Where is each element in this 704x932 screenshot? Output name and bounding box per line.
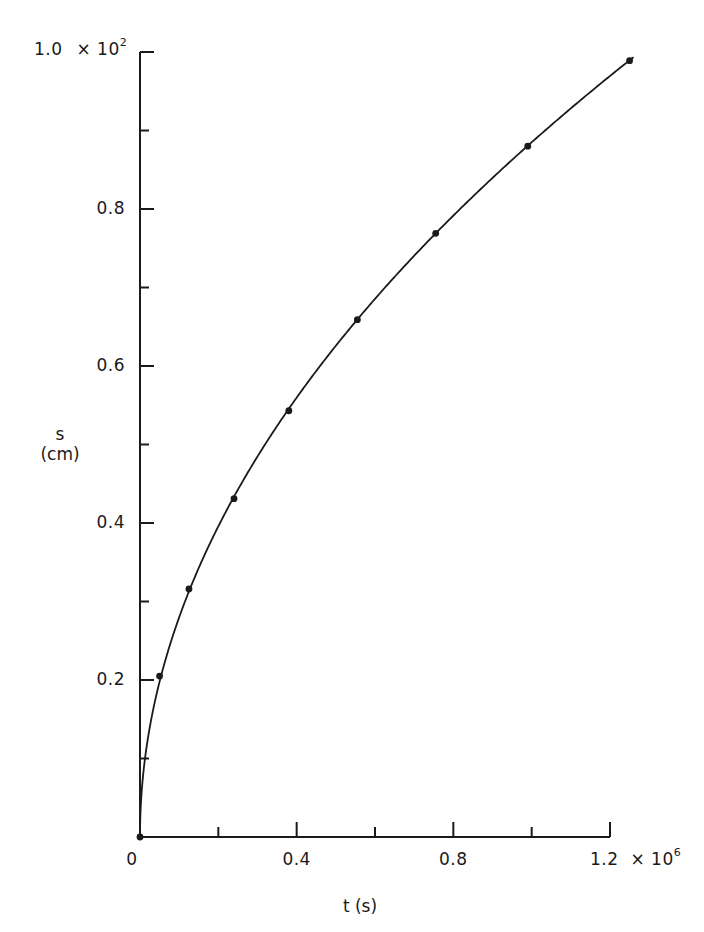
chart-plot-area [0,0,704,932]
y-tick-label: 0.4 [65,512,125,532]
x-multiplier-exp: 6 [674,846,682,859]
data-point [626,57,633,64]
x-tick-label: 0.4 [267,849,327,869]
data-point [354,316,361,323]
data-points [137,57,633,840]
axis-ticks [140,52,610,837]
y-tick-label: 0.8 [65,198,125,218]
fit-curve [140,57,634,837]
y-axis-unit: (cm) [30,444,90,464]
x-axis-title: t (s) [310,896,410,916]
y-multiplier-exp: 2 [120,36,128,49]
axes [140,52,610,837]
x-axis-title-text: t (s) [343,896,377,916]
x-axis-end-label: 1.2 × 106 [590,848,681,869]
data-point [231,495,238,502]
data-point [432,230,439,237]
y-axis-title: s (cm) [30,424,90,464]
data-point [137,834,144,841]
x-tick-label: 0 [102,849,162,869]
y-tick-label: 0.6 [65,355,125,375]
data-point [524,143,531,150]
data-point [156,673,163,680]
y-multiplier: × 10 [76,39,119,59]
x-tick-label: 0.8 [423,849,483,869]
y-axis-top-label: 1.0 × 102 [34,38,127,59]
data-point [186,586,193,593]
y-tick-label: 0.2 [65,669,125,689]
x-multiplier: × 10 [630,849,673,869]
x-end-tick-label: 1.2 [590,849,619,869]
y-top-tick-label: 1.0 [34,39,63,59]
y-axis-symbol: s [30,424,90,444]
data-point [285,407,292,414]
